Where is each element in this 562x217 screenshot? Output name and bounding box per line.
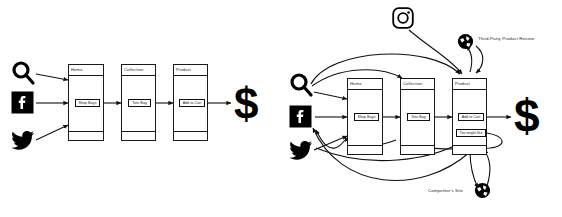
phone-collection-right: Collection Tote Bag — [400, 78, 435, 155]
phone-footer — [348, 145, 382, 154]
phone-header: Product — [453, 79, 486, 90]
screen-title: Product — [455, 81, 470, 86]
phone-header: Product — [174, 65, 207, 76]
phone-footer — [122, 131, 155, 140]
shop-bags-button[interactable]: Shop Bags — [75, 99, 100, 107]
phone-home-right: Home Shop Bags — [347, 78, 383, 155]
diagram-canvas: Home Shop Bags Collection Tote Bag Produ… — [0, 0, 562, 217]
phone-footer — [453, 145, 486, 154]
phone-collection-left: Collection Tote Bag — [121, 64, 156, 141]
screen-title: Home — [350, 81, 362, 86]
screen-title: Home — [71, 67, 83, 72]
phone-footer — [174, 131, 207, 140]
phone-home-left: Home Shop Bags — [68, 64, 104, 141]
twitter-icon — [289, 140, 313, 166]
facebook-icon — [11, 91, 34, 118]
tote-bag-button[interactable]: Tote Bag — [128, 99, 151, 107]
instagram-icon — [392, 7, 414, 33]
globe-icon — [457, 33, 474, 54]
screen-title: Collection — [403, 81, 422, 86]
phone-product-left: Product Add to Cart — [173, 64, 208, 141]
competitor-site-label: Competitor's Site — [428, 188, 463, 193]
conversion-dollar-right: $ — [514, 93, 540, 139]
phone-header: Collection — [122, 65, 155, 76]
search-icon — [288, 72, 314, 102]
twitter-icon — [11, 130, 35, 156]
phone-footer — [401, 145, 434, 154]
search-icon — [10, 60, 36, 90]
tote-bag-button[interactable]: Tote Bag — [407, 113, 430, 121]
screen-title: Collection — [124, 67, 143, 72]
add-to-cart-button[interactable]: Add to Cart — [458, 113, 484, 121]
phone-header: Collection — [401, 79, 434, 90]
phone-product-right: Product Add to Cart You might like — [452, 78, 487, 155]
third-party-review-label: Third-Party Product Review — [478, 36, 534, 41]
shop-bags-button[interactable]: Shop Bags — [354, 113, 379, 121]
globe-icon — [474, 182, 491, 203]
phone-header: Home — [69, 65, 103, 76]
add-to-cart-button[interactable]: Add to Cart — [179, 99, 205, 107]
conversion-dollar-left: $ — [234, 82, 258, 126]
you-might-like-button[interactable]: You might like — [456, 129, 486, 137]
facebook-icon — [289, 105, 312, 132]
phone-footer — [69, 131, 103, 140]
phone-header: Home — [348, 79, 382, 90]
screen-title: Product — [176, 67, 191, 72]
